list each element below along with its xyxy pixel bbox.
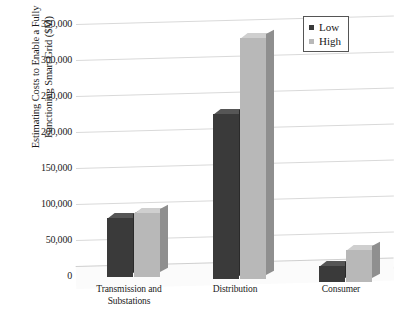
x-axis-label-2: Consumer: [288, 283, 394, 295]
legend-label-high: High: [319, 36, 341, 47]
y-axis-tick-label: 300,000: [14, 55, 72, 65]
plot-area: [76, 14, 394, 282]
y-axis-tick-label: 250,000: [14, 91, 72, 101]
x-axis-label-0: Transmission andSubstations: [76, 283, 182, 307]
legend-item-high[interactable]: High: [309, 34, 341, 48]
y-axis-tick-label: 100,000: [14, 199, 72, 209]
bar-side-face: [160, 205, 168, 273]
x-axis-label-line: Distribution: [182, 283, 288, 295]
bar-side-face: [372, 242, 380, 278]
y-axis-tick-label: 50,000: [14, 235, 72, 245]
bar-high-0[interactable]: [134, 213, 160, 276]
y-axis-tick-labels: 050,000100,000150,000200,000250,000300,0…: [14, 0, 72, 319]
bar-low-0[interactable]: [107, 218, 133, 277]
y-axis-tick-label: 0: [14, 271, 72, 281]
bar-front-face: [134, 213, 160, 276]
bar-front-face: [213, 114, 239, 280]
legend: Low High: [303, 16, 349, 52]
x-axis-category-labels: Transmission andSubstationsDistributionC…: [76, 283, 394, 319]
x-axis-label-line: Consumer: [288, 283, 394, 295]
bar-front-face: [107, 218, 133, 277]
bar-low-1[interactable]: [213, 114, 239, 280]
bar-high-1[interactable]: [240, 38, 266, 279]
legend-swatch-high-icon: [309, 39, 314, 44]
x-axis-label-line: Substations: [76, 295, 182, 307]
bar-side-face: [266, 30, 274, 275]
bar-front-face: [346, 250, 372, 282]
bar-front-face: [240, 38, 266, 279]
bar-high-2[interactable]: [346, 250, 372, 282]
bar-chart: Estimating Costs to Enable a Fully Funct…: [0, 0, 402, 319]
y-axis-tick-label: 150,000: [14, 163, 72, 173]
legend-label-low: Low: [319, 22, 339, 33]
bar-front-face: [319, 266, 345, 282]
y-axis-tick-label: 200,000: [14, 127, 72, 137]
x-axis-label-line: Transmission and: [76, 283, 182, 295]
legend-item-low[interactable]: Low: [309, 20, 341, 34]
legend-swatch-low-icon: [309, 25, 314, 30]
x-axis-label-1: Distribution: [182, 283, 288, 295]
bar-low-2[interactable]: [319, 266, 345, 282]
y-axis-tick-label: 350,000: [14, 19, 72, 29]
